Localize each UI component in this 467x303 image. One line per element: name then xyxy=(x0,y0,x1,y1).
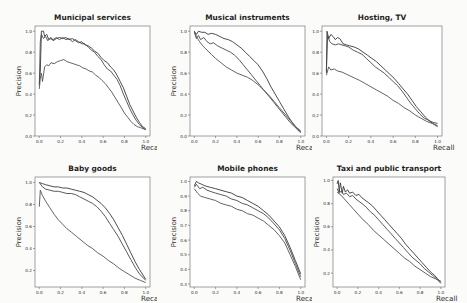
chart-title: Hosting, TV xyxy=(358,13,407,22)
x-tick-label: 0.0 xyxy=(191,139,198,144)
y-tick-label: 0.4 xyxy=(25,246,32,251)
y-tick-label: 1.0 xyxy=(323,178,330,183)
x-axis-label: Recall xyxy=(141,143,157,152)
y-axis-label: Precision xyxy=(170,217,178,247)
x-tick-label: 0.2 xyxy=(57,139,64,144)
figure-page: { "page": { "background": "#fbfbfa", "te… xyxy=(0,0,467,303)
chart-canvas-hosting-tv: 0.00.20.40.60.81.00.00.20.40.60.81.0Host… xyxy=(310,1,465,152)
chart-baby-goods: 0.00.20.40.60.81.00.20.40.60.81.0Baby go… xyxy=(2,152,157,303)
y-tick-label: 1.0 xyxy=(312,29,319,34)
chart-mobile-phones: 0.00.20.40.60.81.00.30.40.50.60.70.80.91… xyxy=(157,152,312,303)
chart-title: Taxi and public transport xyxy=(337,164,442,173)
y-tick-label: 0.0 xyxy=(180,134,187,139)
y-axis-label: Precision xyxy=(313,217,321,247)
x-tick-label: 0.2 xyxy=(57,290,64,295)
chart-title: Mobile phones xyxy=(217,164,278,173)
y-tick-label: 0.0 xyxy=(312,134,319,139)
x-tick-label: 0.6 xyxy=(396,290,403,295)
x-tick-label: 0.4 xyxy=(79,290,86,295)
y-tick-label: 0.7 xyxy=(180,223,187,228)
x-tick-label: 0.0 xyxy=(36,139,43,144)
plot-frame xyxy=(35,26,150,136)
plot-frame xyxy=(35,177,150,287)
chart-musical-instruments: 0.00.20.40.60.81.00.00.20.40.60.81.0Musi… xyxy=(157,1,312,152)
chart-canvas-municipal-services: 0.00.20.40.60.81.00.00.20.40.60.81.0Muni… xyxy=(2,1,157,152)
x-tick-label: 0.6 xyxy=(255,139,262,144)
x-tick-label: 0.6 xyxy=(255,290,262,295)
plot-frame xyxy=(190,177,305,287)
y-tick-label: 0.6 xyxy=(180,71,187,76)
chart-hosting-tv: 0.00.20.40.60.81.00.00.20.40.60.81.0Host… xyxy=(310,1,465,152)
x-axis-label: Recall xyxy=(141,294,157,303)
x-tick-label: 0.6 xyxy=(390,139,397,144)
y-tick-label: 0.8 xyxy=(180,208,187,213)
y-tick-label: 0.2 xyxy=(323,271,330,276)
x-tick-label: 0.6 xyxy=(100,139,107,144)
x-tick-label: 0.2 xyxy=(212,139,219,144)
figure-grid: 0.00.20.40.60.81.00.00.20.40.60.81.0Muni… xyxy=(0,0,467,303)
y-tick-label: 0.8 xyxy=(312,50,319,55)
y-tick-label: 0.6 xyxy=(312,71,319,76)
y-tick-label: 0.4 xyxy=(180,267,187,272)
x-tick-label: 0.0 xyxy=(191,290,198,295)
x-tick-label: 0.2 xyxy=(212,290,219,295)
y-tick-label: 0.9 xyxy=(180,194,187,199)
chart-title: Musical instruments xyxy=(205,13,290,22)
chart-taxi-and-public-transport: 0.00.20.40.60.81.00.20.40.60.81.0Taxi an… xyxy=(310,152,465,303)
y-tick-label: 1.0 xyxy=(25,180,32,185)
chart-canvas-taxi-and-public-transport: 0.00.20.40.60.81.00.20.40.60.81.0Taxi an… xyxy=(310,152,465,303)
y-tick-label: 0.8 xyxy=(25,202,32,207)
x-tick-label: 0.2 xyxy=(355,290,362,295)
chart-title: Baby goods xyxy=(68,164,117,173)
y-tick-label: 0.4 xyxy=(323,247,330,252)
y-tick-label: 0.2 xyxy=(25,113,32,118)
chart-canvas-musical-instruments: 0.00.20.40.60.81.00.00.20.40.60.81.0Musi… xyxy=(157,1,312,152)
y-tick-label: 1.0 xyxy=(25,29,32,34)
y-tick-label: 0.2 xyxy=(180,113,187,118)
x-tick-label: 0.4 xyxy=(79,139,86,144)
y-tick-label: 1.0 xyxy=(180,29,187,34)
y-tick-label: 0.6 xyxy=(25,224,32,229)
x-axis-label: Recall xyxy=(433,143,454,152)
chart-municipal-services: 0.00.20.40.60.81.00.00.20.40.60.81.0Muni… xyxy=(2,1,157,152)
y-tick-label: 0.6 xyxy=(323,224,330,229)
x-tick-label: 0.8 xyxy=(121,290,128,295)
chart-canvas-mobile-phones: 0.00.20.40.60.81.00.30.40.50.60.70.80.91… xyxy=(157,152,312,303)
y-tick-label: 0.6 xyxy=(180,238,187,243)
chart-title: Municipal services xyxy=(54,13,132,22)
y-tick-label: 0.3 xyxy=(180,282,187,287)
y-tick-label: 0.5 xyxy=(180,252,187,257)
y-axis-label: Precision xyxy=(170,66,178,96)
x-tick-label: 0.4 xyxy=(375,290,382,295)
y-tick-label: 0.2 xyxy=(312,113,319,118)
y-tick-label: 0.0 xyxy=(25,134,32,139)
y-tick-label: 0.2 xyxy=(25,268,32,273)
x-tick-label: 0.6 xyxy=(100,290,107,295)
y-tick-label: 0.4 xyxy=(25,92,32,97)
y-axis-label: Precision xyxy=(15,66,23,96)
x-tick-label: 0.8 xyxy=(276,139,283,144)
y-tick-label: 0.8 xyxy=(180,50,187,55)
y-tick-label: 1.0 xyxy=(180,179,187,184)
x-tick-label: 0.8 xyxy=(417,290,424,295)
x-tick-label: 0.2 xyxy=(345,139,352,144)
y-tick-label: 0.8 xyxy=(323,201,330,206)
x-tick-label: 0.4 xyxy=(234,290,241,295)
y-axis-label: Precision xyxy=(15,217,23,247)
y-tick-label: 0.6 xyxy=(25,71,32,76)
x-axis-label: Recall xyxy=(436,294,457,303)
y-tick-label: 0.4 xyxy=(180,92,187,97)
y-tick-label: 0.4 xyxy=(312,92,319,97)
x-tick-label: 0.0 xyxy=(36,290,43,295)
x-tick-label: 0.8 xyxy=(276,290,283,295)
x-tick-label: 0.0 xyxy=(334,290,341,295)
x-tick-label: 0.0 xyxy=(323,139,330,144)
x-tick-label: 0.4 xyxy=(234,139,241,144)
x-tick-label: 0.4 xyxy=(368,139,375,144)
x-tick-label: 0.8 xyxy=(412,139,419,144)
x-tick-label: 0.8 xyxy=(121,139,128,144)
y-tick-label: 0.8 xyxy=(25,50,32,55)
chart-canvas-baby-goods: 0.00.20.40.60.81.00.20.40.60.81.0Baby go… xyxy=(2,152,157,303)
